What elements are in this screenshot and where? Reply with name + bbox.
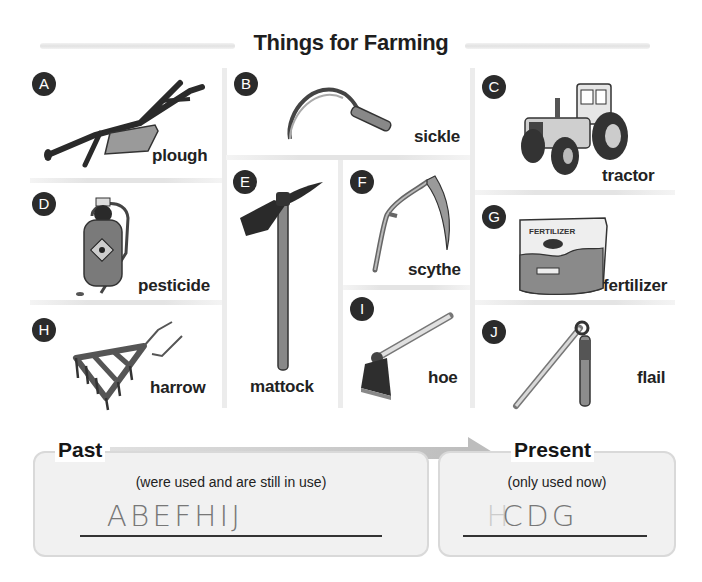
past-subtitle: (were used and are still in use) xyxy=(33,474,429,490)
past-heading: Past xyxy=(55,438,105,462)
grid-divider xyxy=(343,285,470,290)
item-label: pesticide xyxy=(138,276,210,296)
grid-divider xyxy=(470,68,475,408)
title-rule-left xyxy=(40,43,235,49)
item-letter-badge: H xyxy=(32,318,56,342)
mattock-icon xyxy=(238,180,328,380)
item-label: harrow xyxy=(150,378,205,398)
grid-divider xyxy=(338,160,343,408)
grid-divider xyxy=(30,300,222,305)
present-subtitle: (only used now) xyxy=(438,474,676,490)
present-answer-input[interactable]: CDG xyxy=(502,500,577,533)
hoe-icon xyxy=(355,312,455,402)
item-letter-badge: G xyxy=(482,205,506,229)
item-label: mattock xyxy=(250,377,314,397)
item-letter-badge: B xyxy=(234,72,258,96)
item-label: tractor xyxy=(602,166,654,186)
title-rule-right xyxy=(465,43,650,49)
tractor-icon xyxy=(515,78,635,178)
grid-divider xyxy=(226,155,470,160)
item-label: sickle xyxy=(414,127,460,147)
item-label: scythe xyxy=(408,260,461,280)
grid-divider xyxy=(222,68,227,408)
past-answer-line xyxy=(80,535,382,537)
sickle-icon xyxy=(285,82,395,142)
present-answer-line xyxy=(463,535,647,537)
page-header: Things for Farming xyxy=(0,26,702,60)
past-answer-input[interactable]: ABEFHIJ xyxy=(107,500,243,533)
item-label: plough xyxy=(152,146,207,166)
fertilizer-bag-icon: FERTILIZER xyxy=(515,210,615,300)
grid-divider xyxy=(475,190,675,195)
page-title: Things for Farming xyxy=(240,30,462,56)
item-label: hoe xyxy=(428,368,458,388)
item-label: fertilizer xyxy=(603,276,667,296)
present-heading: Present xyxy=(511,438,594,462)
pesticide-sprayer-icon xyxy=(76,198,136,298)
item-letter-badge: D xyxy=(32,192,56,216)
item-letter-badge: J xyxy=(482,320,506,344)
item-label: flail xyxy=(637,368,665,388)
grid-divider xyxy=(30,178,222,183)
flail-icon xyxy=(510,318,600,413)
item-letter-badge: C xyxy=(482,75,506,99)
fertilizer-bag-text: FERTILIZER xyxy=(529,227,575,236)
grid-divider xyxy=(475,300,675,305)
